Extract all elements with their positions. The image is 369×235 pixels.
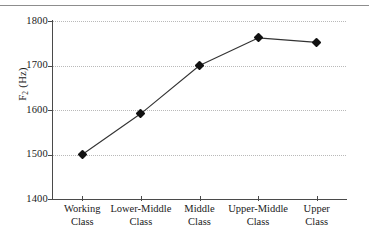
chart-figure: F2 (Hz) 14001500160017001800 WorkingClas… (0, 0, 369, 235)
series-line-layer (0, 0, 369, 235)
series-polyline (82, 38, 316, 155)
